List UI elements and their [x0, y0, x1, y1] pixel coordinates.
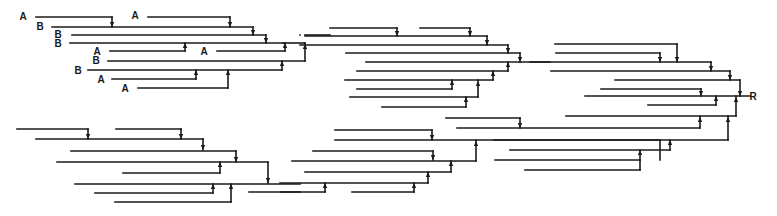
node-label-b: B: [92, 55, 99, 66]
node-label-b: B: [36, 21, 43, 32]
node-label-a: A: [19, 11, 26, 22]
line-segments: [17, 17, 750, 202]
node-label-r: R: [749, 91, 757, 102]
merge-tree-diagram: ABBBABBAAAAR: [0, 0, 777, 216]
arrow-up-icon: [726, 117, 730, 122]
node-label-b: B: [54, 38, 61, 49]
arrow-down-icon: [266, 178, 270, 183]
node-label-a: A: [200, 46, 207, 57]
arrow-up-icon: [476, 81, 480, 86]
node-label-a: A: [121, 83, 128, 94]
arrow-up-icon: [734, 97, 738, 102]
junction-arrows: [86, 22, 742, 189]
arrow-up-icon: [474, 141, 478, 146]
arrow-up-icon: [698, 117, 702, 122]
arrow-down-icon: [431, 155, 435, 160]
node-label-a: A: [131, 10, 138, 21]
node-label-b: B: [74, 65, 81, 76]
diagram-svg: ABBBABBAAAAR: [0, 0, 777, 216]
node-label-a: A: [97, 74, 104, 85]
arrow-down-icon: [201, 145, 205, 150]
